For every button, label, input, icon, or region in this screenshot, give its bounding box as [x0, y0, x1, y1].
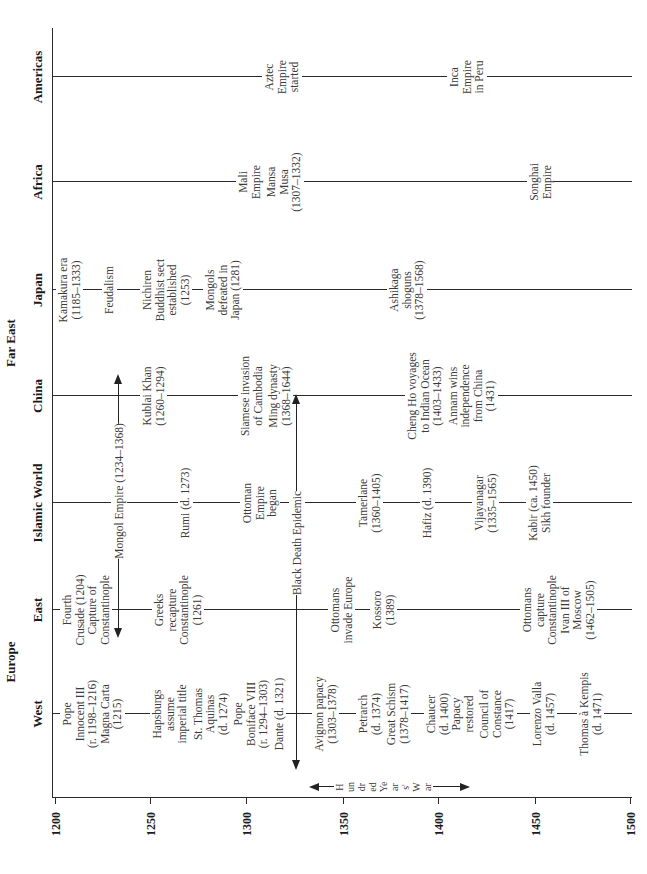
event-line: (1431) — [484, 352, 497, 440]
event-islamic-world: Ottoman Empire began — [240, 481, 280, 525]
event-islamic-world: Kabir (ca. 1450) Sikh founder — [526, 463, 553, 543]
event-line: Dante (d. 1321) — [273, 678, 286, 751]
year-label: 1300 — [240, 812, 255, 860]
event-line: (1368–1644) — [280, 356, 293, 436]
event-line: (1389) — [384, 591, 397, 629]
event-west: Pope Innocent III (r. 1198–1216) Magna C… — [60, 678, 125, 750]
event-line: (1360–1405) — [370, 473, 383, 532]
event-line: Constantinople — [546, 575, 559, 645]
region-header-japan: Japan — [30, 273, 46, 307]
event-line: (1417) — [503, 690, 516, 739]
event-line: Capture of — [86, 574, 99, 645]
event-line: Hapsburgs — [151, 678, 164, 751]
event-east: Kossoro (1389) — [370, 589, 397, 631]
event-line: Empire — [250, 152, 263, 211]
event-line: Ottomans — [521, 575, 534, 645]
event-line: (1260–1294) — [154, 366, 167, 425]
event-line: Ming dynasty — [267, 356, 280, 436]
event-line: Empire — [254, 483, 267, 523]
header-rule — [52, 28, 53, 798]
event-line: Innocent III — [74, 680, 87, 748]
event-line: (d. 1400) — [438, 690, 451, 739]
event-line: Kublai Khan — [141, 366, 154, 425]
event-china: Kublai Khan (1260–1294) — [140, 364, 167, 427]
event-china: Cheng Ho voyages to Indian Ocean (1403–1… — [405, 350, 498, 442]
event-line: Great Schism — [385, 683, 398, 745]
event-line: Kossoro — [371, 591, 384, 629]
group-header-far-east: Far East — [3, 319, 19, 367]
event-islamic-world: Rumi (d. 1273) — [178, 466, 193, 541]
event-line: Annam wins — [447, 352, 460, 440]
event-line: (1303–1378) — [326, 677, 339, 752]
event-china: Siamese invasion of Cambodia Ming dynast… — [238, 354, 293, 438]
arrowhead-up-icon — [309, 783, 319, 791]
event-line: Tamerlane — [357, 473, 370, 532]
event-line: Greeks — [153, 575, 166, 645]
tick-1400 — [438, 797, 439, 804]
event-line: from China — [472, 352, 485, 440]
event-line: Ottoman — [241, 483, 254, 523]
event-line: Lorenzo Valla — [531, 682, 544, 747]
event-line: Magna Carta — [99, 680, 112, 748]
event-line: (r. 1294–1303) — [257, 678, 270, 751]
year-label: 1450 — [529, 812, 544, 860]
event-line: Nichiren — [141, 259, 154, 321]
event-west: Thomas à Kempis (d. 1471) — [577, 670, 604, 758]
region-header-china: China — [30, 379, 46, 413]
event-line: Hafiz (d. 1390) — [421, 468, 434, 539]
timeline-china — [52, 395, 632, 396]
event-line: Avignon papacy — [313, 677, 326, 752]
event-line: (1215) — [111, 680, 124, 748]
region-header-americas: Americas — [30, 51, 46, 104]
event-line: (1335–1565) — [486, 473, 499, 532]
hundred-years-war-label: Hundred Years' War — [334, 781, 433, 793]
event-line: Empire — [541, 163, 554, 201]
arrowhead-left-icon — [114, 628, 122, 638]
tick-1450 — [535, 797, 536, 804]
event-line: Songhai — [528, 163, 541, 201]
event-line: established — [166, 259, 179, 321]
event-line: Empire — [461, 60, 474, 94]
event-line: capture — [534, 575, 547, 645]
year-label: 1200 — [49, 812, 64, 860]
event-islamic-world: Hafiz (d. 1390) — [420, 466, 435, 541]
event-line: Crusade (1204) — [74, 574, 87, 645]
event-line: Cheng Ho voyages — [406, 352, 419, 440]
event-line: (r. 1198–1216) — [86, 680, 99, 748]
event-east: Ottomans invade Europe — [328, 575, 355, 646]
event-line: Mansa — [265, 152, 278, 211]
event-line: (1462–1505) — [584, 575, 597, 645]
event-line: Pope — [61, 680, 74, 748]
event-line: Aquinas — [204, 678, 217, 751]
event-line: to Indian Ocean — [419, 352, 432, 440]
arrowhead-down-icon — [460, 783, 470, 791]
event-line: Papacy — [450, 690, 463, 739]
event-line: of Cambodia — [252, 356, 265, 436]
event-line: St. Thomas — [192, 678, 205, 751]
event-line: Rumi (d. 1273) — [179, 468, 192, 539]
event-line: Council of — [478, 690, 491, 739]
arrowhead-right-icon — [114, 374, 122, 384]
event-line: Pope — [232, 678, 245, 751]
event-line: Constantinople — [99, 574, 112, 645]
event-line: Fourth — [61, 574, 74, 645]
event-line: imperial title — [176, 678, 189, 751]
region-header-east: East — [30, 598, 46, 623]
event-line: (d. 1274) — [217, 678, 230, 751]
year-label: 1350 — [337, 812, 352, 860]
event-line: (1307–1332) — [290, 152, 303, 211]
event-east: Fourth Crusade (1204) Capture of Constan… — [60, 572, 112, 647]
event-west: Lorenzo Valla (d. 1457) — [530, 680, 557, 749]
event-line: independence — [459, 352, 472, 440]
event-line: shoguns — [401, 260, 414, 319]
event-line: Thomas à Kempis — [578, 672, 591, 756]
event-islamic-world: Vijayanagar (1335–1565) — [472, 471, 499, 534]
event-line: Sikh founder — [540, 465, 553, 541]
event-line: Boniface VIII — [245, 678, 258, 751]
region-header-islamic-world: Islamic World — [30, 464, 46, 543]
event-line: (d. 1471) — [591, 672, 604, 756]
event-line: (1253) — [179, 259, 192, 321]
event-line: (1378–1417) — [398, 683, 411, 745]
tick-1250 — [150, 797, 151, 804]
year-label: 1250 — [144, 812, 159, 860]
